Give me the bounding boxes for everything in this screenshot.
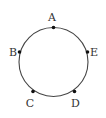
point-e-label: E bbox=[90, 46, 98, 59]
point-c-label: C bbox=[26, 97, 34, 110]
points-layer: ABECD bbox=[9, 11, 98, 110]
point-b-label: B bbox=[9, 46, 17, 59]
point-d-marker bbox=[73, 90, 77, 94]
point-a-label: A bbox=[47, 11, 57, 24]
point-d-label: D bbox=[71, 97, 80, 110]
circle bbox=[19, 28, 88, 97]
point-b-marker bbox=[18, 50, 22, 54]
point-c-marker bbox=[31, 90, 35, 94]
circle-diagram: ABECD bbox=[0, 0, 106, 118]
point-a-marker bbox=[52, 26, 56, 30]
point-e-marker bbox=[86, 50, 90, 54]
